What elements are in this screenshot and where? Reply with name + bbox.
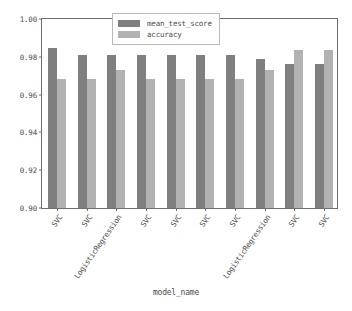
bar-accuracy (116, 70, 125, 208)
bar-mean-test-score (256, 59, 265, 208)
y-tick-label: 0.98 (20, 52, 42, 61)
bar-series-container (42, 19, 337, 208)
bar-group (78, 19, 96, 208)
bar-mean-test-score (48, 48, 57, 208)
x-tick-mark (87, 208, 88, 211)
x-tick-mark (265, 208, 266, 211)
bar-accuracy (87, 79, 96, 208)
bar-accuracy (324, 50, 333, 208)
bar-accuracy (57, 79, 66, 208)
y-tick-label: 0.94 (20, 128, 42, 137)
bar-group (107, 19, 125, 208)
bar-mean-test-score (137, 55, 146, 208)
bar-mean-test-score (315, 64, 324, 208)
y-tick-label: 0.92 (20, 166, 42, 175)
x-tick-mark (176, 208, 177, 211)
bar-group (226, 19, 244, 208)
bar-group (48, 19, 66, 208)
legend-label: mean_test_score (147, 19, 212, 28)
bar-chart-figure: 1.00 0.98 0.96 0.94 0.92 0.90 SVCSVCLogi… (0, 0, 352, 311)
bar-group (285, 19, 303, 208)
bar-mean-test-score (78, 55, 87, 208)
x-tick-mark (116, 208, 117, 211)
x-tick-mark (146, 208, 147, 211)
bar-group (167, 19, 185, 208)
legend-swatch-icon (118, 31, 140, 38)
plot-area: 1.00 0.98 0.96 0.94 0.92 0.90 SVCSVCLogi… (41, 18, 338, 209)
y-tick-label: 0.96 (20, 90, 42, 99)
bar-accuracy (265, 70, 274, 208)
bar-mean-test-score (226, 55, 235, 208)
legend-item-mean-test-score: mean_test_score (118, 18, 212, 29)
bar-mean-test-score (167, 55, 176, 208)
legend-swatch-icon (118, 20, 140, 27)
bar-accuracy (235, 79, 244, 208)
bar-group (256, 19, 274, 208)
x-tick-mark (205, 208, 206, 211)
y-tick-label: 1.00 (20, 15, 42, 24)
bar-accuracy (205, 79, 214, 208)
legend-label: accuracy (147, 30, 182, 39)
x-tick-mark (57, 208, 58, 211)
y-tick-label: 0.90 (20, 204, 42, 213)
bar-accuracy (294, 50, 303, 208)
bar-accuracy (146, 79, 155, 208)
x-tick-mark (294, 208, 295, 211)
x-tick-mark (324, 208, 325, 211)
bar-group (196, 19, 214, 208)
bar-mean-test-score (285, 64, 294, 208)
x-axis-title: model_name (0, 288, 352, 297)
bar-group (315, 19, 333, 208)
legend-item-accuracy: accuracy (118, 29, 212, 40)
bar-mean-test-score (196, 55, 205, 208)
chart-legend: mean_test_score accuracy (112, 13, 220, 45)
bar-mean-test-score (107, 55, 116, 208)
x-tick-mark (235, 208, 236, 211)
bar-group (137, 19, 155, 208)
bar-accuracy (176, 79, 185, 208)
